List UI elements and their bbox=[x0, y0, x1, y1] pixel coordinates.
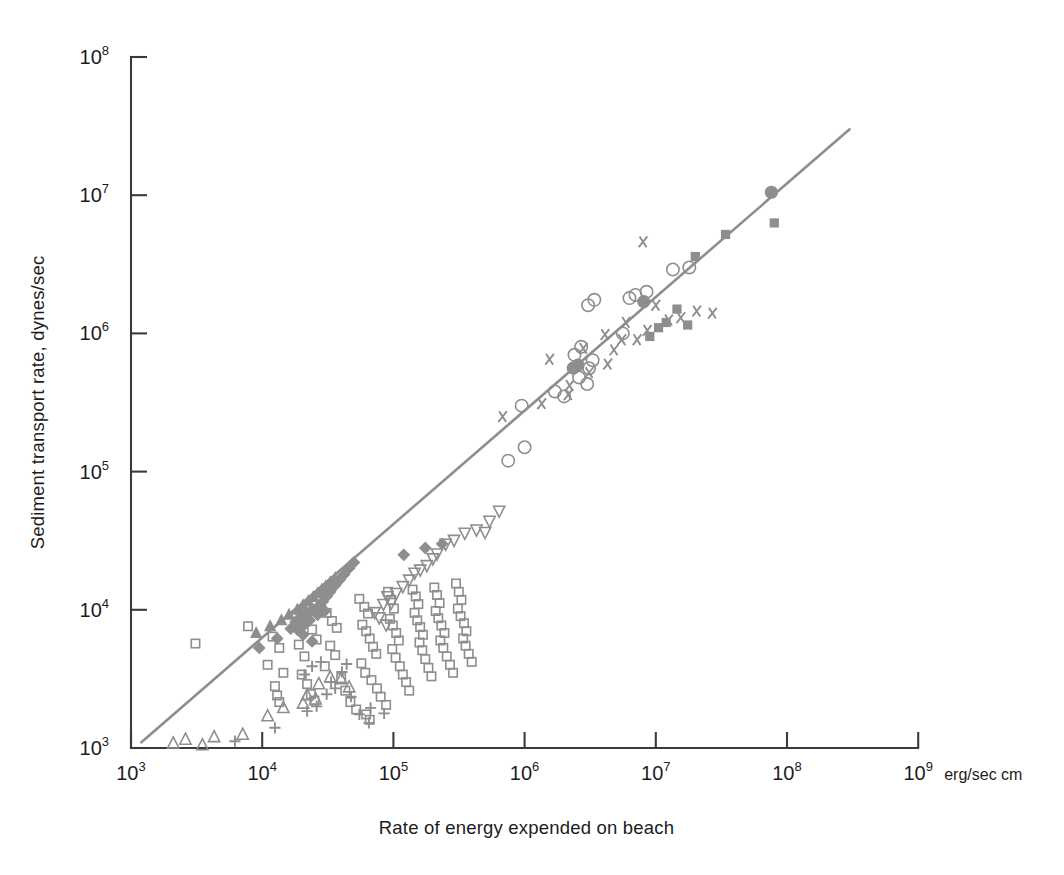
marker-open-circle bbox=[586, 354, 598, 366]
marker-open-square bbox=[191, 639, 199, 647]
scatter-chart-figure: 108107106105104103103104105106107108109e… bbox=[0, 0, 1064, 875]
marker-open-triangle-down bbox=[397, 582, 408, 593]
marker-open-square bbox=[357, 659, 365, 667]
axis-group bbox=[131, 57, 918, 748]
marker-open-square bbox=[300, 652, 308, 660]
marker-x-cross bbox=[708, 308, 717, 319]
marker-open-square bbox=[467, 658, 475, 666]
x-tick-label: 109 bbox=[903, 759, 932, 784]
marker-open-square bbox=[391, 654, 399, 662]
x-tick-label: 107 bbox=[641, 759, 670, 784]
x-axis-title: Rate of energy expended on beach bbox=[379, 817, 674, 838]
marker-open-triangle-up bbox=[262, 710, 273, 721]
marker-open-circle bbox=[502, 454, 514, 466]
marker-open-square bbox=[303, 680, 311, 688]
marker-open-triangle-up bbox=[313, 678, 324, 689]
marker-open-square bbox=[263, 661, 271, 669]
marker-open-square bbox=[275, 644, 283, 652]
marker-x-cross bbox=[537, 398, 546, 409]
marker-open-triangle-down bbox=[479, 527, 490, 538]
marker-open-square bbox=[279, 669, 287, 677]
y-tick-label: 107 bbox=[80, 181, 109, 206]
marker-open-triangle-up bbox=[168, 737, 179, 748]
marker-open-square bbox=[376, 693, 384, 701]
marker-open-square bbox=[449, 669, 457, 677]
marker-x-cross bbox=[639, 236, 648, 247]
marker-x-cross bbox=[610, 344, 619, 355]
marker-plus bbox=[365, 702, 376, 713]
marker-open-square bbox=[427, 672, 435, 680]
marker-x-cross bbox=[565, 380, 574, 391]
marker-open-square bbox=[455, 588, 463, 596]
marker-open-circle bbox=[581, 378, 593, 390]
marker-open-circle bbox=[518, 441, 530, 453]
marker-open-square bbox=[271, 682, 279, 690]
marker-filled-circle bbox=[765, 186, 778, 199]
marker-x-cross bbox=[676, 312, 685, 323]
marker-open-square bbox=[382, 701, 390, 709]
marker-open-square bbox=[355, 595, 363, 603]
marker-filled-square bbox=[672, 304, 681, 313]
marker-open-triangle-down bbox=[484, 516, 495, 527]
marker-x-cross bbox=[651, 300, 660, 311]
marker-plus bbox=[269, 722, 280, 733]
marker-filled-square bbox=[770, 218, 779, 227]
marker-open-square bbox=[452, 579, 460, 587]
plot-canvas: 108107106105104103103104105106107108109e… bbox=[0, 0, 1064, 875]
y-axis-title: Sediment transport rate, dynes/sec bbox=[27, 256, 48, 550]
regression-line bbox=[141, 129, 849, 742]
marker-open-square bbox=[421, 655, 429, 663]
marker-open-square bbox=[321, 662, 329, 670]
marker-open-square bbox=[443, 652, 451, 660]
series-open-square bbox=[191, 579, 476, 724]
marker-x-cross bbox=[498, 411, 507, 422]
trend-line bbox=[141, 129, 849, 742]
marker-open-square bbox=[373, 684, 381, 692]
marker-open-square bbox=[465, 650, 473, 658]
x-tick-label: 104 bbox=[247, 759, 276, 784]
marker-filled-diamond bbox=[397, 548, 410, 561]
marker-filled-diamond bbox=[306, 635, 319, 648]
marker-x-cross bbox=[633, 334, 642, 345]
marker-open-square bbox=[424, 664, 432, 672]
marker-open-circle bbox=[667, 263, 679, 275]
marker-open-square bbox=[396, 662, 404, 670]
marker-filled-triangle-up bbox=[264, 619, 276, 631]
marker-filled-square bbox=[691, 252, 700, 261]
marker-open-triangle-down bbox=[459, 528, 470, 539]
marker-filled-diamond bbox=[419, 542, 432, 555]
marker-open-circle bbox=[515, 399, 527, 411]
marker-x-cross bbox=[601, 329, 610, 340]
x-tick-label: 106 bbox=[510, 759, 539, 784]
marker-open-square bbox=[446, 661, 454, 669]
marker-open-square bbox=[326, 641, 334, 649]
marker-open-triangle-up bbox=[180, 733, 191, 744]
marker-x-cross bbox=[621, 317, 630, 328]
y-tick-label: 106 bbox=[80, 319, 109, 344]
x-tick-label: 108 bbox=[772, 759, 801, 784]
series-open-circle bbox=[502, 261, 695, 467]
marker-filled-circle bbox=[567, 362, 580, 375]
marker-open-square bbox=[308, 625, 316, 633]
marker-open-square bbox=[388, 645, 396, 653]
x-tick-label: 105 bbox=[379, 759, 408, 784]
x-tick-label: 103 bbox=[116, 759, 145, 784]
marker-open-triangle-up bbox=[208, 731, 219, 742]
x-axis-unit-label: erg/sec cm bbox=[944, 766, 1022, 783]
marker-x-cross bbox=[603, 359, 612, 370]
marker-open-triangle-up bbox=[237, 728, 248, 739]
y-tick-label: 104 bbox=[80, 596, 109, 621]
marker-filled-square bbox=[721, 230, 730, 239]
y-tick-label: 103 bbox=[80, 734, 109, 759]
marker-x-cross bbox=[585, 367, 594, 378]
marker-open-square bbox=[331, 651, 339, 659]
marker-x-cross bbox=[545, 354, 554, 365]
marker-x-cross bbox=[692, 306, 701, 317]
marker-open-square bbox=[295, 640, 303, 648]
y-tick-label: 108 bbox=[80, 43, 109, 68]
marker-plus bbox=[321, 689, 332, 700]
marker-open-square bbox=[244, 622, 252, 630]
marker-filled-circle bbox=[637, 295, 650, 308]
marker-open-square bbox=[435, 599, 443, 607]
y-tick-label: 105 bbox=[80, 458, 109, 483]
